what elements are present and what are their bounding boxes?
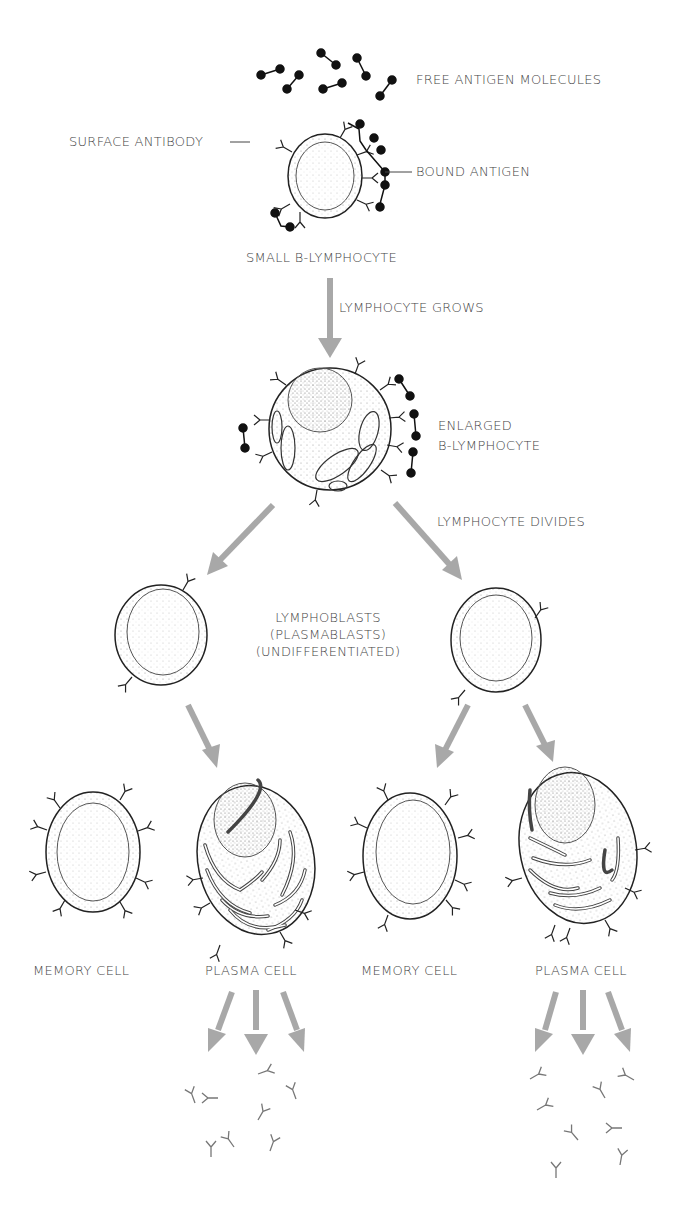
lymphoblast-right-cell [451,588,548,705]
label-small-b-lymphocyte: SMALL B-LYMPHOCYTE [246,250,397,265]
arrow-to-plasma-1-icon [188,705,220,768]
label-free-antigen: FREE ANTIGEN MOLECULES [416,72,601,87]
label-enlarged-line-2: B-LYMPHOCYTE [438,436,540,456]
label-lymphocyte-grows: LYMPHOCYTE GROWS [339,300,484,315]
secretion-arrows-2-icon [535,990,631,1055]
label-lymphoblasts-line-2: (PLASMABLASTS) [248,626,408,643]
arrow-to-plasma-2-icon [525,705,555,762]
label-plasma-cell-1: PLASMA CELL [205,963,297,978]
small-b-lymphocyte-cell [274,122,378,228]
label-plasma-cell-2: PLASMA CELL [535,963,627,978]
label-enlarged-b-lymphocyte: ENLARGED B-LYMPHOCYTE [438,416,540,456]
memory-cell-2 [347,783,474,931]
label-memory-cell-2: MEMORY CELL [361,963,457,978]
plasma-cell-2 [505,762,651,945]
label-lymphoblasts-line-1: LYMPHOBLASTS [248,609,408,626]
lymphoblast-left-cell [115,574,207,693]
label-enlarged-line-1: ENLARGED [438,416,540,436]
label-bound-antigen: BOUND ANTIGEN [416,164,530,179]
label-surface-antibody: SURFACE ANTIBODY [69,134,203,149]
arrow-divide-left-icon [207,505,273,575]
diagram-canvas [0,0,692,1207]
secreted-antibodies-2-icon [528,1067,637,1178]
label-lymphoblasts-line-3: (UNDIFFERENTIATED) [248,643,408,660]
label-lymphocyte-divides: LYMPHOCYTE DIVIDES [437,514,585,529]
free-antigen-molecules-icon [257,49,396,100]
secreted-antibodies-1-icon [185,1064,301,1157]
label-lymphoblasts: LYMPHOBLASTS (PLASMABLASTS) (UNDIFFERENT… [248,609,408,660]
enlarged-b-lymphocyte-cell [254,357,405,506]
label-memory-cell-1: MEMORY CELL [33,963,129,978]
secretion-arrows-1-icon [208,990,305,1055]
arrow-grows-icon [318,278,342,358]
plasma-cell-1 [184,775,329,962]
arrow-to-memory-2-icon [435,705,468,768]
memory-cell-1 [29,784,154,919]
